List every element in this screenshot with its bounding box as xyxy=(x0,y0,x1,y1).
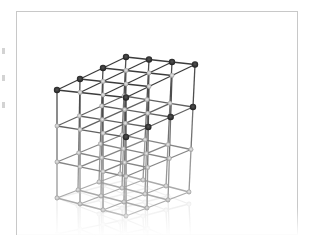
lattice-node xyxy=(101,169,106,174)
lattice-node xyxy=(143,200,148,205)
lattice-node xyxy=(168,101,173,106)
lattice-node xyxy=(78,164,83,169)
edge-mark xyxy=(2,102,5,108)
lattice-node xyxy=(78,190,83,195)
lattice-node xyxy=(166,142,171,147)
lattice-node xyxy=(118,172,123,177)
lattice-node xyxy=(146,56,152,62)
lattice-node xyxy=(100,65,106,71)
lattice-node xyxy=(122,107,127,112)
lattice-node xyxy=(123,134,129,140)
lattice-node xyxy=(147,84,152,89)
lattice-node xyxy=(101,93,106,98)
lattice-node xyxy=(187,190,192,195)
lattice-node xyxy=(101,184,106,189)
lattice-node xyxy=(120,186,125,191)
edge-mark xyxy=(2,48,5,54)
lattice-node xyxy=(55,196,60,201)
lattice-node xyxy=(76,151,81,156)
lattice-node xyxy=(122,192,127,197)
lattice-node xyxy=(145,97,150,102)
lattice-node xyxy=(145,111,150,116)
lattice-node xyxy=(190,104,196,110)
lattice-node xyxy=(122,160,127,165)
lattice-node xyxy=(164,184,169,189)
lattice-node xyxy=(99,104,104,109)
edge-marks xyxy=(0,40,8,120)
lattice-node xyxy=(123,121,128,126)
lattice-node xyxy=(170,73,175,78)
lattice-node xyxy=(124,82,129,87)
lattice-node xyxy=(77,76,83,82)
lattice-node xyxy=(55,160,60,165)
lattice-node xyxy=(77,114,82,119)
lattice-node xyxy=(167,156,172,161)
lattice-node xyxy=(187,202,192,207)
lattice-node xyxy=(98,142,103,147)
lattice-node xyxy=(124,178,129,183)
lattice-node xyxy=(123,54,129,60)
lattice-node xyxy=(145,186,150,191)
lattice-node xyxy=(100,117,105,122)
lattice-node xyxy=(144,151,149,156)
lattice-node xyxy=(101,79,106,84)
lattice-node xyxy=(166,194,171,199)
lattice-node xyxy=(189,147,194,152)
edge-mark xyxy=(2,75,5,81)
lattice-node xyxy=(121,146,126,151)
lattice-node xyxy=(145,165,150,170)
lattice-node xyxy=(97,180,102,185)
lattice-node xyxy=(143,137,148,142)
lattice-node xyxy=(99,155,104,160)
lattice-node xyxy=(78,127,83,132)
lattice-node xyxy=(123,94,129,100)
lattice-node xyxy=(54,87,60,93)
lattice-node xyxy=(55,124,60,129)
lattice-node xyxy=(101,131,106,136)
lattice-node xyxy=(99,198,104,203)
lattice-node xyxy=(169,59,175,65)
image-frame xyxy=(16,11,298,235)
lattice-node xyxy=(147,71,152,76)
lattice-node xyxy=(124,68,129,73)
lattice-node xyxy=(78,90,83,95)
lattice-node xyxy=(141,178,146,183)
lattice-cube-illustration xyxy=(17,12,299,236)
lattice-node xyxy=(192,61,198,67)
lattice-node xyxy=(167,114,173,120)
lattice-node xyxy=(145,124,151,130)
